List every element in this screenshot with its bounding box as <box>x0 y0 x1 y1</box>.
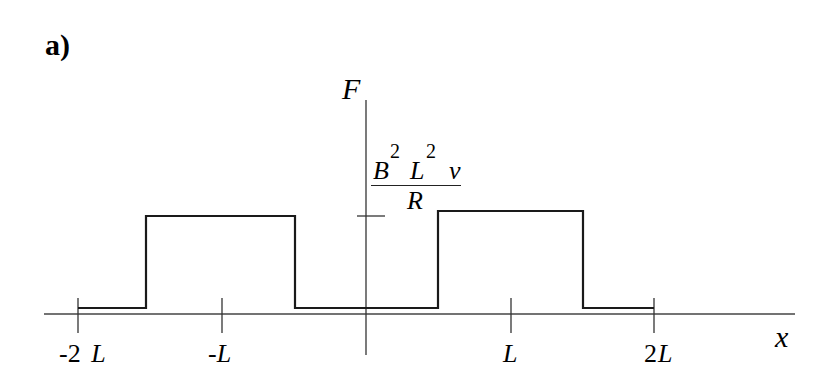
x-tick-label-minus-L: -L <box>208 339 231 369</box>
tick-variable: L <box>658 339 672 368</box>
numerator-L: L <box>410 156 424 186</box>
tick-number: -2 <box>59 339 81 368</box>
y-tick-fraction: B 2 L 2 v R <box>369 146 477 210</box>
tick-variable: L <box>91 339 105 368</box>
numerator-B-exponent: 2 <box>390 140 400 163</box>
tick-variable: L <box>503 339 517 368</box>
x-axis-label: x <box>775 320 788 354</box>
numerator-v: v <box>449 156 461 186</box>
y-axis-label: F <box>342 72 360 106</box>
x-tick-label-minus-2L: -2 L <box>59 339 106 369</box>
tick-variable: L <box>217 339 231 368</box>
x-tick-label-L: L <box>503 339 517 369</box>
panel-label: a) <box>45 28 70 62</box>
denominator-R: R <box>407 186 423 216</box>
tick-number: - <box>208 339 217 368</box>
x-tick-label-2L: 2L <box>644 339 672 369</box>
numerator-L-exponent: 2 <box>426 140 436 163</box>
tick-number: 2 <box>644 339 657 368</box>
numerator-B: B <box>373 156 389 186</box>
